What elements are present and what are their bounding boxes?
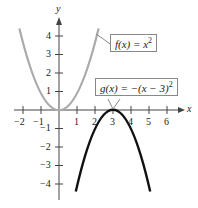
x-axis-label: x [187,103,191,114]
x-tick-label: 3 [110,116,115,127]
x-tick-label: −2 [14,116,25,127]
g-callout-pointer [108,99,120,109]
g-label-text: g(x) = −(x − 3) [100,82,169,94]
x-tick-label: 4 [128,116,133,127]
f-label-text: f(x) = x [115,38,148,50]
x-tick-label: 2 [92,116,97,127]
x-tick-label: 5 [146,116,151,127]
g-label-exponent: 2 [169,80,173,89]
chart-canvas [0,0,198,208]
x-axis-arrow-icon [178,107,185,113]
y-tick-label: −4 [40,178,51,189]
g-function-label: g(x) = −(x − 3)2 [95,78,178,96]
y-tick-label: 3 [46,48,51,59]
y-axis-label: y [56,3,60,14]
y-tick-label: −2 [40,141,51,152]
y-tick-label: 2 [46,67,51,78]
y-tick-label: −1 [40,122,51,133]
f-callout-pointer [96,34,110,44]
f-function-label: f(x) = x2 [110,34,157,52]
y-axis-arrow-icon [56,17,62,25]
y-tick-label: −3 [40,159,51,170]
x-tick-label: 6 [164,116,169,127]
x-tick-label: 1 [74,116,79,127]
f-label-exponent: 2 [148,36,152,45]
y-tick-label: 4 [46,30,51,41]
y-tick-label: 1 [46,85,51,96]
